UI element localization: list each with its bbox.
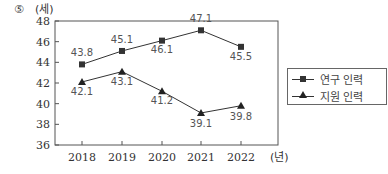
square-marker-icon — [198, 27, 204, 33]
square-marker-icon — [300, 76, 306, 82]
square-marker-icon — [79, 61, 85, 67]
x-axis-unit: (년) — [270, 151, 289, 164]
data-label: 45.5 — [230, 51, 252, 62]
y-tick-label: 36 — [36, 139, 50, 152]
y-axis-ticks: 36384042444648 — [36, 15, 59, 152]
data-label: 43.8 — [71, 47, 93, 58]
y-tick-label: 42 — [36, 77, 50, 90]
y-tick-label: 40 — [36, 98, 50, 111]
data-label: 41.2 — [151, 95, 173, 106]
x-tick-label: 2021 — [187, 151, 215, 164]
data-label: 42.1 — [71, 86, 93, 97]
square-marker-icon — [238, 44, 244, 50]
legend-item-research: 연구 인력 — [292, 71, 364, 87]
square-marker-icon — [119, 48, 125, 54]
triangle-marker-icon — [299, 91, 307, 98]
x-tick-label: 2020 — [148, 151, 176, 164]
x-axis-ticks: 20182019202020212022 — [68, 141, 255, 164]
triangle-marker-icon — [237, 102, 245, 109]
y-tick-label: 48 — [36, 15, 50, 28]
triangle-marker-icon — [118, 68, 126, 75]
legend: 연구 인력 지원 인력 — [287, 68, 387, 105]
legend-label: 지원 인력 — [320, 88, 364, 104]
legend-label: 연구 인력 — [320, 71, 364, 87]
data-label: 45.1 — [111, 34, 133, 45]
legend-line — [292, 96, 314, 97]
x-tick-label: 2019 — [108, 151, 136, 164]
data-series: 43.845.146.147.145.542.143.141.239.139.8 — [71, 13, 252, 129]
legend-item-support: 지원 인력 — [292, 88, 364, 104]
triangle-marker-icon — [158, 87, 166, 94]
data-label: 47.1 — [190, 13, 212, 24]
x-tick-label: 2022 — [227, 151, 255, 164]
data-label: 46.1 — [151, 44, 173, 55]
data-label: 39.1 — [190, 118, 212, 129]
legend-line — [292, 79, 314, 80]
y-tick-label: 44 — [36, 56, 50, 69]
data-label: 43.1 — [111, 76, 133, 87]
question-number: ⑤ — [14, 3, 24, 16]
data-label: 39.8 — [230, 111, 252, 122]
x-tick-label: 2018 — [68, 151, 96, 164]
y-tick-label: 38 — [36, 118, 50, 131]
y-tick-label: 46 — [36, 36, 50, 49]
